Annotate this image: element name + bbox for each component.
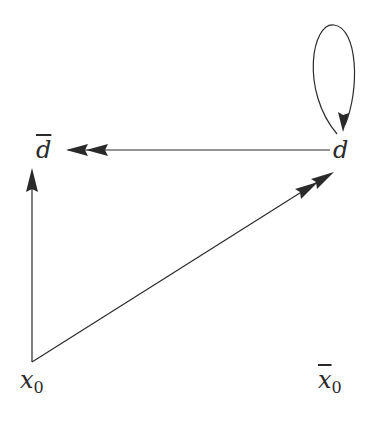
node-dbar: d: [36, 138, 51, 162]
node-x0bar: x0: [318, 368, 342, 396]
node-x0-subscript: 0: [34, 378, 44, 397]
diagram-edges: [0, 0, 375, 421]
edge-d-self-loop: [313, 25, 354, 134]
arrowhead-icon: [66, 144, 88, 156]
node-d-label: d: [333, 136, 348, 164]
node-x0bar-label: x: [318, 366, 332, 394]
node-d: d: [333, 138, 348, 162]
node-x0bar-subscript: 0: [332, 378, 342, 397]
diagram-canvas: d d x0 x0: [0, 0, 375, 421]
arrowhead-icon: [338, 112, 349, 132]
arrowhead-icon: [311, 172, 334, 189]
node-x0: x0: [20, 368, 44, 396]
arrowhead-icon: [86, 144, 108, 156]
edge-x0-to-d: [32, 174, 330, 362]
node-x0-label: x: [20, 366, 34, 394]
node-dbar-label: d: [36, 136, 51, 164]
arrowhead-icon: [26, 168, 38, 192]
arrowhead-icon: [295, 182, 318, 199]
